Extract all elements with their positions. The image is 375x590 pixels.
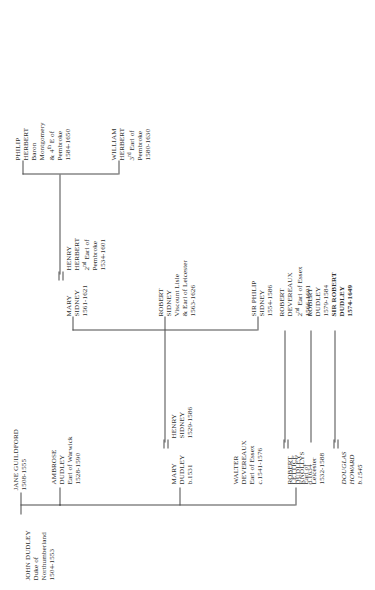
branch-to-philip-herbert (22, 160, 23, 174)
descent-mary-henry-herbert (59, 174, 60, 274)
node-william-herbert: WILLIAM HERBERT 3rd Earl of Pembroke 158… (110, 72, 152, 160)
ordinal-rest: E of (47, 130, 55, 144)
node-dates: 1529-1586 (186, 350, 194, 438)
node-dates: 1554-1586 (266, 228, 274, 316)
node-robert-devereaux: ROBERT DEVEREAUX 2nd Earl of Essex 1566-… (278, 228, 312, 316)
node-dates: 1532-1588 (318, 396, 326, 484)
ordinal-rest: Earl of (82, 239, 90, 261)
node-ordinal-title: 3rd Earl of (126, 72, 136, 160)
node-dates: 1566-1601 (304, 228, 312, 316)
node-philip-herbert: PHILIP HERBERT Baron Montgomery & 4th E … (14, 72, 72, 160)
node-dates: 1528-1590 (74, 396, 82, 484)
marriage-line-root (20, 492, 21, 514)
node-jane-guildford: JANE GUILDFORD 1508-1555 (12, 370, 28, 490)
node-dates: 1534-1601 (99, 182, 107, 270)
node-ambrose-dudley: AMBROSE DUDLEY Earl of Warwick 1528-1590 (50, 396, 82, 484)
node-walter-devereaux: WALTER DEVEREAUX Earl of Essex c.1541-15… (232, 396, 264, 484)
branch-to-william-herbert (118, 160, 119, 174)
ordinal-number: & 4 (47, 149, 55, 160)
node-douglas-howard: DOUGLAS HOWARD b.1545 (340, 396, 364, 484)
ordinal-number: 2 (82, 266, 90, 270)
ordinal-suffix: nd (80, 261, 86, 266)
node-dates: 1574-1649 (346, 228, 354, 316)
node-dates: 1580-1630 (144, 72, 152, 160)
descent-douglas-robert (334, 330, 335, 442)
gen2-sibling-spine (59, 504, 295, 505)
node-robert-sidney: ROBERT SIDNEY Viscount Lisle & Earl of L… (157, 228, 197, 316)
node-henry-sidney: HENRY SIDNEY 1529-1586 (170, 350, 194, 438)
root-descent-stem (20, 504, 59, 505)
branch-to-mary-dudley (179, 487, 180, 505)
branch-to-robert-dudley-leicester (295, 487, 296, 505)
node-name-2: DEVEREAUX (286, 228, 294, 316)
node-ordinal-title: & 4th E of (46, 72, 56, 160)
branch-to-robert-sidney (164, 316, 165, 330)
node-dates: 1584-1650 (64, 72, 72, 160)
mary-henry-descent-stem (164, 330, 165, 442)
branch-to-sir-philip-sidney (257, 316, 258, 330)
ordinal-rest: Earl of (127, 130, 135, 152)
node-dates: b.1545 (356, 396, 364, 484)
ordinal-number: 3 (127, 156, 135, 160)
ordinal-number: 2 (295, 312, 303, 316)
node-sir-robert-dudley: SIR ROBERT DUDLEY 1574-1649 (330, 228, 354, 316)
ordinal-suffix: nd (293, 307, 299, 312)
node-dates: 1508-1555 (20, 370, 28, 490)
branch-to-ambrose-dudley (59, 487, 60, 505)
node-name-2: HERBERT (118, 72, 126, 160)
node-ordinal-title: 2nd Earl of Essex (294, 228, 304, 316)
descent-robert-lettice (310, 330, 311, 442)
herbert-children-spine (22, 173, 118, 174)
node-sir-philip-sidney: SIR PHILIP SIDNEY 1554-1586 (250, 228, 274, 316)
ordinal-rest: Earl of Essex (295, 266, 303, 307)
family-tree-canvas: JOHN DUDLEY Duke of Northumberland 1504-… (0, 0, 375, 590)
node-robert-dudley-leicester: ROBERT DUDLEY Earl of Leicester 1532-158… (286, 396, 326, 484)
node-name-2: HERBERT (73, 182, 81, 270)
node-dates: 1579-1584 (322, 228, 330, 316)
branch-to-mary-sidney (72, 316, 73, 330)
chart-viewport: JOHN DUDLEY Duke of Northumberland 1504-… (0, 0, 375, 590)
node-henry-herbert: HENRY HERBERT 2nd Earl of Pembroke 1534-… (65, 182, 107, 270)
descent-lettice-walter (284, 330, 285, 442)
node-dates: 1563-1626 (189, 228, 197, 316)
node-dates: c.1541-1576 (256, 396, 264, 484)
node-ordinal-title: 2nd Earl of (81, 182, 91, 270)
